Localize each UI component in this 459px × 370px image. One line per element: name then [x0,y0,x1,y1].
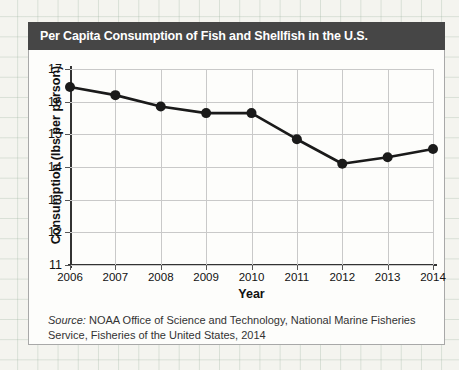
x-tick-label: 2008 [148,271,174,283]
x-tick [115,265,116,270]
data-point [110,90,120,100]
x-tick [206,265,207,270]
x-tick-label: 2006 [57,271,83,283]
x-tick-label: 2014 [420,271,446,283]
y-tick-label: 15 [48,127,62,141]
x-tick-label: 2010 [239,271,265,283]
x-tick [388,265,389,270]
data-point [247,108,257,118]
x-tick [161,265,162,270]
x-tick [252,265,253,270]
x-tick-label: 2007 [103,271,129,283]
data-point [156,102,166,112]
plot-area: 11121314151617 2006200720082009201020112… [70,69,433,265]
x-tick-label: 2013 [375,271,401,283]
y-axis-label: Consumption (lbs per person) [49,65,63,245]
x-tick [342,265,343,270]
data-point [337,159,347,169]
y-tick-label: 14 [48,160,62,174]
gridline-vertical [433,69,434,265]
x-tick [433,265,434,270]
data-series [70,69,433,265]
series-line [70,87,433,164]
source-note: Source: NOAA Office of Science and Techn… [48,313,438,342]
x-tick-label: 2009 [193,271,219,283]
y-tick-label: 16 [48,95,62,109]
chart-area: Consumption (lbs per person) 11121314151… [28,50,445,305]
data-point [428,144,438,154]
x-tick [297,265,298,270]
x-tick-label: 2012 [329,271,355,283]
y-tick-label: 17 [48,62,62,76]
x-tick-label: 2011 [285,271,310,283]
y-tick-label: 13 [48,193,62,207]
data-point [65,82,75,92]
x-axis-label: Year [70,287,433,301]
data-point [201,108,211,118]
source-label: Source: [48,314,86,326]
y-tick-label: 11 [49,258,62,272]
source-text: NOAA Office of Science and Technology, N… [48,314,415,341]
x-tick [70,265,71,270]
chart-title-bar: Per Capita Consumption of Fish and Shell… [28,22,445,50]
chart-title: Per Capita Consumption of Fish and Shell… [28,29,368,43]
data-point [292,134,302,144]
data-point [383,152,393,162]
y-tick-label: 12 [48,225,62,239]
